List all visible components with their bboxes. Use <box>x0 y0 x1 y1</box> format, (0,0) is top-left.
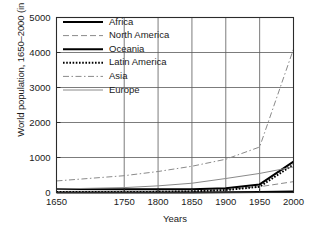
legend-label-asia: Asia <box>109 70 127 81</box>
y-tick-label: 1000 <box>17 152 51 163</box>
legend-label-europe: Europe <box>109 84 140 95</box>
legend-label-oceania: Oceania <box>109 43 144 54</box>
legend-label-africa: Africa <box>109 16 133 27</box>
series-line-europe <box>57 167 294 189</box>
chart-figure: World population, 1650–2000 (in millions… <box>0 0 308 235</box>
axes-frame <box>57 18 294 193</box>
legend-label-north-america: North America <box>109 29 169 40</box>
x-axis-label: Years <box>56 213 294 224</box>
y-tick-label: 4000 <box>17 47 51 58</box>
series-line-asia <box>57 49 294 181</box>
series-line-africa <box>57 162 294 190</box>
y-tick-label: 5000 <box>17 12 51 23</box>
x-tick-label: 1650 <box>37 196 77 207</box>
y-tick-label: 2000 <box>17 117 51 128</box>
legend-label-latin-america: Latin America <box>109 56 167 67</box>
y-tick-label: 3000 <box>17 82 51 93</box>
x-tick-label: 2000 <box>274 196 309 207</box>
